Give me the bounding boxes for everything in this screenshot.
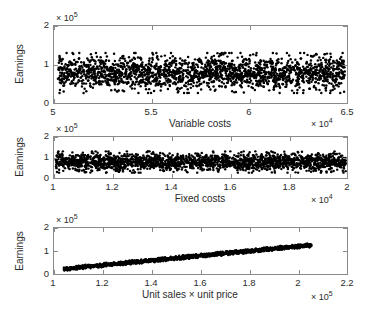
xtick-top-1-2 xyxy=(250,26,251,30)
yticklabel-2-2: 2 xyxy=(44,131,49,141)
xtick-top-3-2 xyxy=(152,228,153,232)
yticklabel-text-1-2: 2 xyxy=(44,19,49,30)
xtick-2-1 xyxy=(113,174,114,178)
ytick-right-2-1 xyxy=(343,158,347,159)
yticklabel-text-2-2: 2 xyxy=(44,130,49,141)
xticklabel-text-3-3: 1.6 xyxy=(193,277,206,288)
y-exponent-label-2: × 105 xyxy=(56,125,78,134)
xticklabel-text-1-0: 5 xyxy=(50,106,55,117)
yticklabel-text-3-1: 1 xyxy=(44,245,49,256)
yticklabel-text-2-0: 0 xyxy=(44,172,49,183)
xticklabel-text-1-2: 6 xyxy=(246,106,251,117)
y-exponent-text-3: × 10 xyxy=(56,215,74,225)
axes-box-2 xyxy=(53,136,348,179)
xtick-top-3-1 xyxy=(103,228,104,232)
xtick-top-3-5 xyxy=(299,228,300,232)
xticklabel-1-1: 5.5 xyxy=(144,107,157,117)
xtick-2-2 xyxy=(172,174,173,178)
x-exponent-text-2: × 10 xyxy=(311,195,329,205)
xticklabel-text-2-4: 1.8 xyxy=(282,181,295,192)
yticklabel-1-0: 0 xyxy=(44,98,49,108)
xtick-3-5 xyxy=(299,270,300,274)
x-exponent-label-1: × 104 xyxy=(311,120,333,129)
x-exponent-text-3: × 10 xyxy=(311,292,329,302)
ylabel-1: Earnings xyxy=(15,44,25,83)
subplot-variable-costs xyxy=(53,25,348,104)
y-exponent-power-1: 5 xyxy=(74,11,78,18)
xticklabel-2-0: 1 xyxy=(50,182,55,192)
xlabel-text-3: Unit sales × unit price xyxy=(142,289,238,300)
xticklabel-3-5: 2 xyxy=(295,278,300,288)
xtick-3-2 xyxy=(152,270,153,274)
ytick-3-2 xyxy=(54,228,58,229)
xticklabel-2-1: 1.2 xyxy=(105,182,118,192)
xticklabel-3-6: 2.2 xyxy=(340,278,353,288)
x-exponent-power-1: 4 xyxy=(329,117,333,124)
x-exponent-label-2: × 104 xyxy=(311,196,333,205)
y-exponent-power-3: 5 xyxy=(74,213,78,220)
xtick-1-1 xyxy=(152,99,153,103)
xticklabel-text-3-1: 1.2 xyxy=(95,277,108,288)
y-exponent-label-1: × 105 xyxy=(56,14,78,23)
xtick-3-0 xyxy=(54,270,55,274)
yticklabel-3-0: 0 xyxy=(44,269,49,279)
xticklabel-text-2-3: 1.6 xyxy=(223,181,236,192)
ytick-right-3-1 xyxy=(343,251,347,252)
subplot-fixed-costs xyxy=(53,136,348,179)
x-exponent-power-2: 4 xyxy=(329,193,333,200)
figure-canvas: × 105 2 1 0 5 5.5 6 6.5 Earnings Variabl… xyxy=(0,0,370,309)
xticklabel-2-2: 1.4 xyxy=(164,182,177,192)
ylabel-3: Earnings xyxy=(15,231,25,270)
ytick-1-2 xyxy=(54,26,58,27)
x-exponent-text-1: × 10 xyxy=(311,119,329,129)
ytick-right-1-2 xyxy=(343,26,347,27)
axes-box-3 xyxy=(53,227,348,275)
xtick-1-2 xyxy=(250,99,251,103)
scatter-points-3 xyxy=(54,228,347,274)
xticklabel-text-3-6: 2.2 xyxy=(340,277,353,288)
yticklabel-text-2-1: 1 xyxy=(44,151,49,162)
xticklabel-3-1: 1.2 xyxy=(95,278,108,288)
xtick-top-2-1 xyxy=(113,137,114,141)
xlabel-1: Variable costs xyxy=(169,119,231,129)
ytick-right-2-2 xyxy=(343,137,347,138)
xtick-2-0 xyxy=(54,174,55,178)
ylabel-text-1: Earnings xyxy=(14,44,25,83)
xtick-top-2-2 xyxy=(172,137,173,141)
xticklabel-2-3: 1.6 xyxy=(223,182,236,192)
yticklabel-3-2: 2 xyxy=(44,222,49,232)
yticklabel-text-3-2: 2 xyxy=(44,221,49,232)
xticklabel-text-3-4: 1.8 xyxy=(242,277,255,288)
xtick-top-2-3 xyxy=(231,137,232,141)
x-exponent-power-3: 5 xyxy=(329,290,333,297)
y-exponent-power-2: 5 xyxy=(74,122,78,129)
yticklabel-text-1-0: 0 xyxy=(44,97,49,108)
ytick-2-2 xyxy=(54,137,58,138)
x-exponent-label-3: × 105 xyxy=(311,293,333,302)
y-exponent-text-1: × 10 xyxy=(56,13,74,23)
xticklabel-text-2-2: 1.4 xyxy=(164,181,177,192)
xtick-3-3 xyxy=(201,270,202,274)
xticklabel-2-4: 1.8 xyxy=(282,182,295,192)
xtick-2-4 xyxy=(290,174,291,178)
xticklabel-text-3-5: 2 xyxy=(295,277,300,288)
ytick-1-1 xyxy=(54,65,58,66)
ytick-3-1 xyxy=(54,251,58,252)
y-exponent-text-2: × 10 xyxy=(56,124,74,134)
xticklabel-text-1-3: 6.5 xyxy=(340,106,353,117)
xtick-top-1-1 xyxy=(152,26,153,30)
xticklabel-1-0: 5 xyxy=(50,107,55,117)
xlabel-2: Fixed costs xyxy=(175,194,226,204)
yticklabel-3-1: 1 xyxy=(44,246,49,256)
xlabel-text-1: Variable costs xyxy=(169,118,231,129)
ylabel-text-3: Earnings xyxy=(14,231,25,270)
xticklabel-3-0: 1 xyxy=(50,278,55,288)
xtick-top-3-3 xyxy=(201,228,202,232)
subplot-unit-sales-price xyxy=(53,227,348,275)
xticklabel-text-3-2: 1.4 xyxy=(144,277,157,288)
xlabel-3: Unit sales × unit price xyxy=(142,290,238,300)
y-exponent-label-3: × 105 xyxy=(56,216,78,225)
xticklabel-text-2-5: 2 xyxy=(344,181,349,192)
xtick-3-1 xyxy=(103,270,104,274)
xtick-top-2-4 xyxy=(290,137,291,141)
